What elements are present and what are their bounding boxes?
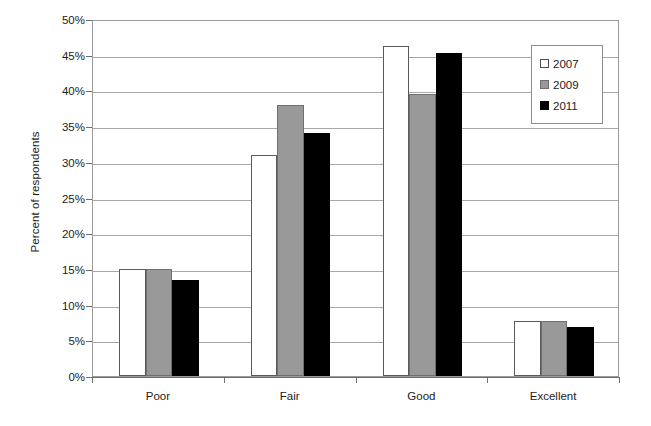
x-tick-label-good: Good — [361, 390, 481, 402]
y-tick-label: 35% — [33, 121, 85, 133]
bar-excellent-2011 — [567, 327, 594, 376]
y-tick-label: 15% — [33, 264, 85, 276]
y-tick-label: 5% — [33, 335, 85, 347]
bar-good-2007 — [383, 46, 410, 376]
y-tick-label: 50% — [33, 14, 85, 26]
legend-label: 2009 — [553, 79, 579, 91]
legend-item-2007[interactable]: 2007 — [540, 53, 596, 74]
y-tick-label: 40% — [33, 85, 85, 97]
y-tick-label: 25% — [33, 193, 85, 205]
x-tick-label-fair: Fair — [230, 390, 350, 402]
legend-swatch-2011-icon — [540, 101, 549, 110]
bar-chart: Percent of respondents 0%5%10%15%20%25%3… — [0, 0, 651, 426]
x-tick-label-poor: Poor — [98, 390, 218, 402]
x-tick-mark — [92, 377, 93, 383]
bar-poor-2009 — [146, 269, 173, 376]
gridline — [93, 200, 618, 201]
gridline — [93, 164, 618, 165]
legend: 200720092011 — [531, 45, 603, 124]
legend-label: 2007 — [553, 58, 579, 70]
gridline — [93, 235, 618, 236]
bar-good-2011 — [436, 53, 463, 376]
bar-excellent-2007 — [514, 321, 541, 376]
bar-poor-2011 — [172, 280, 199, 376]
x-tick-mark — [356, 377, 357, 383]
bar-excellent-2009 — [541, 321, 568, 376]
y-tick-label: 20% — [33, 228, 85, 240]
legend-swatch-2007-icon — [540, 59, 549, 68]
y-tick-label: 10% — [33, 300, 85, 312]
y-tick-label: 0% — [33, 371, 85, 383]
x-tick-mark — [619, 377, 620, 383]
bar-fair-2011 — [304, 133, 331, 376]
legend-item-2011[interactable]: 2011 — [540, 95, 596, 116]
x-tick-label-excellent: Excellent — [493, 390, 613, 402]
x-tick-mark — [487, 377, 488, 383]
bar-poor-2007 — [119, 269, 146, 376]
bar-fair-2009 — [277, 105, 304, 376]
bar-fair-2007 — [251, 155, 278, 376]
bar-good-2009 — [409, 94, 436, 376]
gridline — [93, 128, 618, 129]
y-tick-label: 45% — [33, 50, 85, 62]
legend-swatch-2009-icon — [540, 80, 549, 89]
y-tick-label: 30% — [33, 157, 85, 169]
legend-label: 2011 — [553, 100, 578, 112]
x-tick-mark — [224, 377, 225, 383]
legend-item-2009[interactable]: 2009 — [540, 74, 596, 95]
